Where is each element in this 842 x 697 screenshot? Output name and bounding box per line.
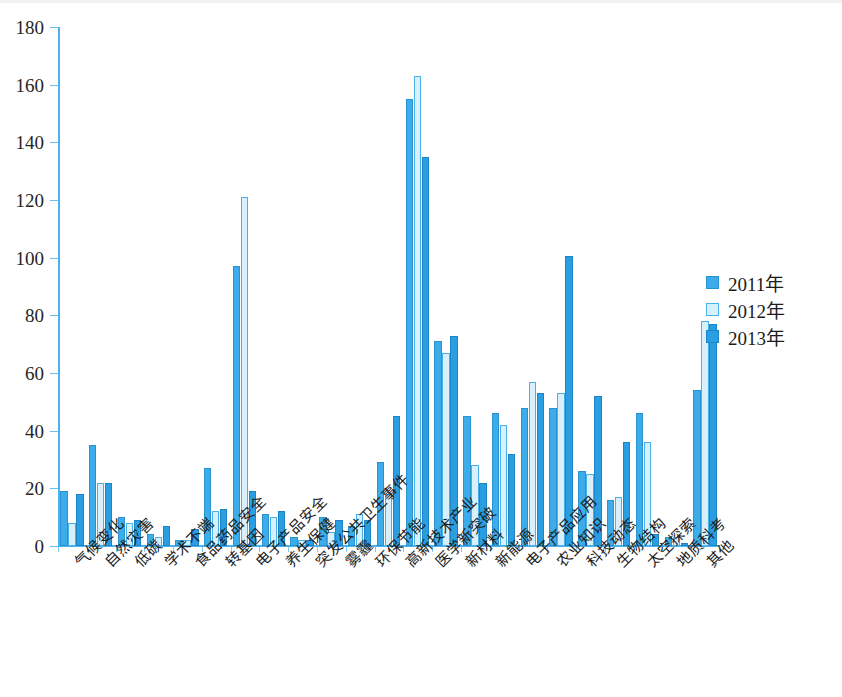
legend-item[interactable]: 2011年 xyxy=(706,269,785,296)
legend-swatch-icon xyxy=(706,330,719,343)
y-axis-tick xyxy=(50,546,58,547)
bar-group xyxy=(259,27,288,546)
bar-group xyxy=(317,27,346,546)
x-axis-tick xyxy=(58,547,59,552)
legend-item[interactable]: 2012年 xyxy=(706,296,785,323)
bar-group xyxy=(375,27,404,546)
bar[interactable] xyxy=(537,393,544,546)
bar[interactable] xyxy=(68,523,75,546)
y-axis-tick-label: 140 xyxy=(0,133,44,152)
bar-group xyxy=(461,27,490,546)
bar-group xyxy=(519,27,548,546)
legend-swatch-icon xyxy=(706,276,719,289)
bar-group xyxy=(116,27,145,546)
bar[interactable] xyxy=(163,526,170,546)
bar[interactable] xyxy=(60,491,67,546)
bar-group xyxy=(58,27,87,546)
legend-item[interactable]: 2013年 xyxy=(706,323,785,350)
bar-group xyxy=(432,27,461,546)
legend-swatch-icon xyxy=(706,303,719,316)
y-axis-tick xyxy=(50,373,58,374)
y-axis-tick xyxy=(50,200,58,201)
bar[interactable] xyxy=(414,76,421,546)
y-axis-tick-label: 0 xyxy=(0,537,44,556)
y-axis-tick-label: 180 xyxy=(0,18,44,37)
y-axis-tick-label: 60 xyxy=(0,364,44,383)
bar[interactable] xyxy=(241,197,248,546)
legend-label: 2012年 xyxy=(728,296,785,323)
chart-legend: 2011年2012年2013年 xyxy=(706,269,785,350)
y-axis-tick xyxy=(50,488,58,489)
bar-group xyxy=(202,27,231,546)
bar-group xyxy=(576,27,605,546)
bar[interactable] xyxy=(76,494,83,546)
y-axis-tick-label: 40 xyxy=(0,422,44,441)
y-axis-tick-label: 160 xyxy=(0,76,44,95)
bar[interactable] xyxy=(529,382,536,546)
bar-group xyxy=(87,27,116,546)
bar-group xyxy=(288,27,317,546)
bar[interactable] xyxy=(500,425,507,546)
bar-group xyxy=(547,27,576,546)
bar-group xyxy=(605,27,634,546)
bar-group xyxy=(662,27,691,546)
bar-group xyxy=(634,27,663,546)
y-axis-tick xyxy=(50,315,58,316)
y-axis-tick-label: 120 xyxy=(0,191,44,210)
legend-label: 2011年 xyxy=(728,269,784,296)
bar-group xyxy=(231,27,260,546)
y-axis-tick-label: 20 xyxy=(0,479,44,498)
bar-group xyxy=(173,27,202,546)
bar-chart: 020406080100120140160180 气候变化自然灾害低碳学术不端食… xyxy=(0,0,842,697)
bar[interactable] xyxy=(701,321,708,546)
bar[interactable] xyxy=(422,157,429,546)
plot-area xyxy=(58,27,720,546)
bar-group xyxy=(346,27,375,546)
y-axis-tick xyxy=(50,142,58,143)
legend-label: 2013年 xyxy=(728,323,785,350)
top-edge-artifact xyxy=(0,0,842,3)
bar-group xyxy=(490,27,519,546)
bar-group xyxy=(144,27,173,546)
y-axis-tick xyxy=(50,431,58,432)
y-axis-tick xyxy=(50,27,58,28)
y-axis-tick xyxy=(50,85,58,86)
y-axis-tick-label: 80 xyxy=(0,306,44,325)
y-axis-tick-label: 100 xyxy=(0,249,44,268)
y-axis-tick xyxy=(50,258,58,259)
bar-group xyxy=(403,27,432,546)
